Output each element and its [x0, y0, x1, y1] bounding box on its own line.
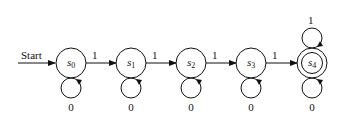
self-loop-label: 0	[128, 101, 134, 113]
state-diagram: Start s00s10s20s30s4011111	[0, 0, 340, 126]
self-loop-label: 0	[248, 101, 254, 113]
state-s0: s00	[56, 48, 86, 113]
self-loop-label: 0	[309, 101, 315, 113]
self-loop-label: 0	[68, 101, 74, 113]
transition-label: 1	[272, 49, 278, 61]
self-loop-arrowhead	[196, 79, 202, 85]
start-label: Start	[21, 49, 42, 61]
self-loop-arrowhead	[317, 79, 323, 85]
transition-s3-s4: 1	[266, 49, 297, 63]
transition-s0-s1: 1	[86, 49, 116, 63]
transition-s1-s2: 1	[146, 49, 176, 63]
state-s4: s401	[297, 14, 327, 113]
start-arrow: Start	[18, 49, 55, 63]
state-s3: s30	[236, 48, 266, 113]
transition-s2-s3: 1	[206, 49, 236, 63]
state-s1: s10	[116, 48, 146, 113]
self-loop-arrowhead	[136, 79, 142, 85]
top-loop-label: 1	[308, 14, 314, 26]
state-s2: s20	[176, 48, 206, 113]
top-loop-arrowhead	[317, 41, 323, 47]
self-loop-label: 0	[188, 101, 194, 113]
transition-label: 1	[92, 49, 98, 61]
transition-label: 1	[152, 49, 158, 61]
self-loop-arrowhead	[76, 79, 82, 85]
self-loop-arrowhead	[256, 79, 262, 85]
transition-label: 1	[212, 49, 218, 61]
